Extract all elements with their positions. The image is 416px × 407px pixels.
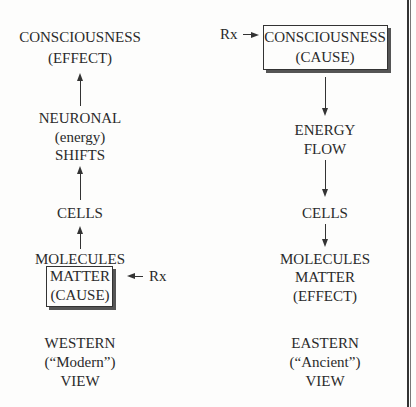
western-neuronal-label: NEURONAL (39, 109, 122, 128)
arrow-up-icon (77, 73, 83, 81)
western-energy-label: (energy) (55, 128, 106, 147)
arrow-down-icon (322, 239, 328, 247)
arrow-molecules-to-cells (80, 233, 81, 249)
eastern-consciousness-label: CONSCIOUSNESS (264, 28, 386, 47)
western-caption-line1: WESTERN (45, 334, 116, 353)
eastern-molecules-label: MOLECULES (280, 250, 370, 269)
page-border-right-inner (410, 0, 411, 407)
western-cells-label: CELLS (57, 204, 103, 223)
arrow-up-icon (77, 166, 83, 174)
arrow-cells-to-molecules (325, 224, 326, 240)
eastern-caption-line3: VIEW (305, 372, 344, 391)
arrow-down-icon (322, 108, 328, 116)
arrow-down-icon (322, 189, 328, 197)
arrow-consciousness-to-energy (325, 77, 326, 109)
eastern-energy-label: ENERGY (295, 121, 356, 140)
western-effect-label: (EFFECT) (48, 49, 112, 68)
western-consciousness-label: CONSCIOUSNESS (19, 28, 141, 47)
eastern-caption-line1: EASTERN (291, 334, 359, 353)
eastern-cause-label: (CAUSE) (295, 48, 354, 67)
eastern-matter-label: MATTER (295, 268, 355, 287)
eastern-rx-label: Rx (220, 25, 238, 44)
western-cause-label: (CAUSE) (50, 286, 109, 305)
arrow-neuronal-to-consciousness (80, 80, 81, 106)
western-caption-line3: VIEW (60, 372, 99, 391)
eastern-effect-label: (EFFECT) (293, 287, 357, 306)
diagram-canvas: CONSCIOUSNESS (EFFECT) NEURONAL (energy)… (0, 0, 416, 407)
western-matter-label: MATTER (50, 267, 110, 286)
western-rx-label: Rx (149, 267, 167, 286)
eastern-flow-label: FLOW (304, 140, 347, 159)
arrow-energy-to-cells (325, 160, 326, 190)
eastern-cells-label: CELLS (302, 204, 348, 223)
rx-arrow-right-icon (251, 32, 259, 38)
western-caption-line2: (“Modern”) (45, 353, 116, 372)
rx-arrow-shaft (133, 276, 143, 277)
western-shifts-label: SHIFTS (55, 146, 105, 165)
arrow-cells-to-neuronal (80, 173, 81, 200)
arrow-up-icon (77, 226, 83, 234)
page-border-right (407, 0, 409, 407)
eastern-caption-line2: (“Ancient”) (290, 353, 361, 372)
